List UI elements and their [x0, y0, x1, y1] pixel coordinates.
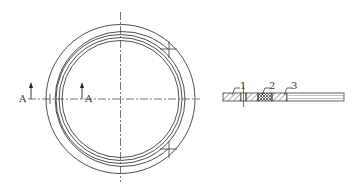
- section-marker-right: A: [80, 82, 93, 104]
- plain-bar: [287, 93, 344, 101]
- section-marker-left: A: [18, 82, 33, 104]
- part-1-right-hatch: [246, 93, 258, 101]
- section-label-right: A: [84, 93, 93, 104]
- arrow-up-icon: [29, 82, 33, 88]
- part-2-crosshatch: [258, 93, 272, 101]
- section-label-left: A: [18, 93, 27, 104]
- plan-view: [28, 12, 200, 182]
- callout-1: 1: [240, 80, 246, 91]
- technical-drawing: A A 1 2 3: [0, 0, 364, 194]
- callout-3: 3: [291, 80, 297, 91]
- arrow-up-icon: [80, 82, 84, 88]
- callout-2: 2: [269, 80, 275, 91]
